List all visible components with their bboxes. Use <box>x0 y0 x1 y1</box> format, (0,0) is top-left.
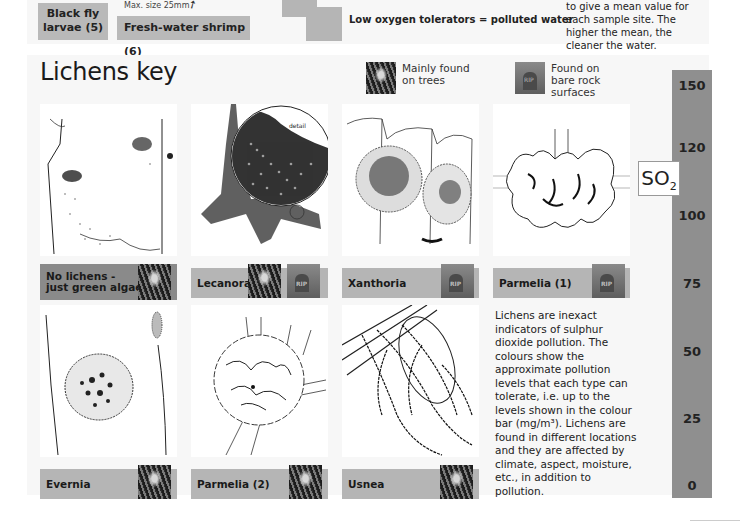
page-title: Lichens key <box>40 58 177 86</box>
tree-bark-icon <box>138 264 171 300</box>
scale-tick-75: 75 <box>672 276 712 291</box>
usnea-illustration <box>342 305 479 457</box>
xanthoria-name: Xanthoria <box>348 278 406 289</box>
page-edge-divider <box>690 520 740 525</box>
evernia-illustration <box>40 305 177 457</box>
lecanora-name: Lecanora <box>197 278 251 289</box>
legend-trees: Mainly found on trees <box>366 62 482 94</box>
gravestone-icon <box>515 62 545 94</box>
grey-swatch <box>306 7 342 41</box>
black-fly-larvae-label: Black fly larvae (5) <box>38 3 108 40</box>
parmelia-2-label: Parmelia (2) <box>191 469 328 499</box>
scale-tick-25: 25 <box>672 411 712 426</box>
usnea-name: Usnea <box>348 479 384 490</box>
freshwater-shrimp-label: Fresh-water shrimp (6) <box>117 16 250 40</box>
evernia-name: Evernia <box>46 479 90 490</box>
black-fly-line2: larvae (5) <box>38 21 108 35</box>
legend-rocks: Found on bare rock surfaces <box>515 62 621 98</box>
no-lichens-illustration <box>40 104 177 256</box>
black-fly-line1: Black fly <box>38 7 108 21</box>
lecanora-label: Lecanora <box>191 268 328 298</box>
scale-tick-150: 150 <box>672 78 712 93</box>
gravestone-icon <box>287 264 320 298</box>
tree-bark-icon <box>440 465 473 499</box>
scale-tick-50: 50 <box>672 344 712 359</box>
low-oxygen-note: Low oxygen tolerators = polluted water <box>349 14 573 25</box>
gravestone-icon <box>441 264 474 298</box>
lichens-info-text: Lichens are inexact indicators of sulphu… <box>495 309 640 498</box>
evernia-label: Evernia <box>40 469 177 499</box>
legend-rocks-text: Found on bare rock surfaces <box>551 62 621 98</box>
usnea-label: Usnea <box>342 469 479 499</box>
tree-bark-icon <box>248 264 281 298</box>
parmelia-1-name: Parmelia (1) <box>499 278 572 289</box>
tree-bark-icon <box>289 465 322 499</box>
max-size-note: Max. size 25mm <box>124 1 189 10</box>
scale-tick-0: 0 <box>672 478 712 493</box>
parmelia-2-illustration <box>191 305 328 457</box>
so2-text: SO <box>641 166 669 190</box>
detail-caption: detail <box>289 122 306 129</box>
tree-bark-icon <box>366 62 396 94</box>
scale-tick-120: 120 <box>672 140 712 155</box>
xanthoria-label: Xanthoria <box>342 268 479 298</box>
legend-trees-text: Mainly found on trees <box>402 62 482 86</box>
lecanora-illustration: detail <box>191 104 328 256</box>
parmelia-2-name: Parmelia (2) <box>197 479 270 490</box>
scale-tick-100: 100 <box>672 208 712 223</box>
parmelia-1-illustration <box>493 104 630 256</box>
no-lichens-line2: just green algae <box>46 282 142 293</box>
no-lichens-label: No lichens - just green algae <box>40 264 177 300</box>
parmelia-1-label: Parmelia (1) <box>493 268 630 298</box>
mean-value-text: to give a mean value for each sample sit… <box>566 0 706 52</box>
xanthoria-illustration <box>342 104 479 256</box>
tree-bark-icon <box>138 465 171 499</box>
gravestone-icon <box>592 264 625 298</box>
so2-scale-bar: 150 120 100 75 50 25 0 <box>672 70 712 498</box>
so2-label: SO2 <box>638 161 680 196</box>
so2-subscript: 2 <box>670 180 677 193</box>
